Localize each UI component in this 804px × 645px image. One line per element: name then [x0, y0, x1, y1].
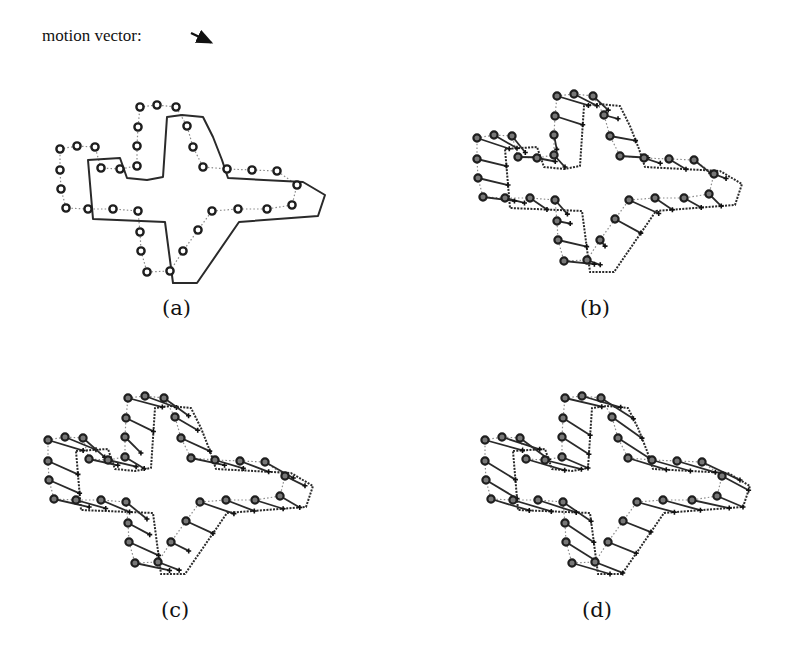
- sample-point: [234, 205, 241, 212]
- sample-point: [134, 207, 141, 214]
- sample-point: [236, 457, 243, 464]
- matched-point-marker: [664, 467, 669, 472]
- sample-point: [516, 434, 523, 441]
- sample-point: [514, 153, 521, 160]
- displacement-vector: [49, 480, 80, 493]
- sample-point: [136, 103, 143, 110]
- sample-point: [273, 167, 280, 174]
- sample-point: [248, 166, 255, 173]
- matched-point-marker: [520, 448, 525, 453]
- sample-point: [211, 456, 218, 463]
- sample-point: [718, 472, 725, 479]
- sample-point: [710, 170, 717, 177]
- sample-point: [177, 434, 184, 441]
- caption-d: (d): [582, 598, 612, 622]
- sample-point: [137, 247, 144, 254]
- sample-point: [680, 194, 687, 201]
- matched-point-marker: [549, 509, 554, 514]
- sample-point: [223, 165, 230, 172]
- sample-point: [501, 194, 508, 201]
- sample-point: [97, 496, 104, 503]
- sample-point: [196, 498, 203, 505]
- sample-point: [183, 122, 190, 129]
- sample-point: [56, 145, 63, 152]
- matched-point-marker: [127, 510, 132, 515]
- sample-point: [596, 236, 603, 243]
- sample-point: [288, 201, 295, 208]
- matched-point-marker: [553, 159, 558, 164]
- sample-point: [122, 414, 129, 421]
- sample-point-contour: [477, 94, 714, 261]
- sample-point: [473, 155, 480, 162]
- sample-point: [73, 142, 80, 149]
- sample-point: [651, 194, 658, 201]
- sample-point: [551, 196, 558, 203]
- matched-point-marker: [741, 505, 746, 510]
- sample-point: [533, 154, 540, 161]
- sample-point: [79, 434, 86, 441]
- sample-point: [616, 152, 623, 159]
- caption-c: (c): [161, 598, 189, 622]
- sample-point: [293, 181, 300, 188]
- sample-point: [698, 458, 705, 465]
- sample-point: [133, 142, 140, 149]
- sample-point: [578, 392, 585, 399]
- sample-point: [498, 433, 505, 440]
- object-contour: [88, 115, 325, 283]
- matched-point-marker: [584, 244, 589, 249]
- matched-point-marker: [586, 103, 591, 108]
- matched-point-marker: [658, 161, 663, 166]
- sample-point: [482, 476, 489, 483]
- sample-point: [281, 472, 288, 479]
- sample-point: [673, 457, 680, 464]
- sample-point: [167, 538, 174, 545]
- matched-point-marker: [103, 506, 108, 511]
- sample-point: [659, 496, 666, 503]
- sample-point: [208, 207, 215, 214]
- sample-point: [179, 247, 186, 254]
- matched-point-marker: [527, 508, 532, 513]
- sample-point: [600, 111, 607, 118]
- sample-point: [121, 433, 128, 440]
- sample-point: [124, 394, 131, 401]
- sample-point: [479, 193, 486, 200]
- sample-point: [182, 517, 189, 524]
- displacement-vector: [485, 461, 515, 480]
- sample-point: [276, 492, 283, 499]
- sample-point: [172, 103, 179, 110]
- sample-point: [199, 163, 206, 170]
- sample-point: [508, 132, 515, 139]
- sample-point: [124, 519, 131, 526]
- sample-point: [131, 559, 138, 566]
- sample-point: [134, 123, 141, 130]
- matched-point-marker: [698, 508, 703, 513]
- sample-point: [171, 413, 178, 420]
- sample-point: [604, 538, 611, 545]
- panel-c: [44, 392, 313, 574]
- sample-point: [570, 90, 577, 97]
- sample-point: [154, 558, 161, 565]
- sample-point: [558, 433, 565, 440]
- sample-point: [553, 92, 560, 99]
- sample-point: [97, 164, 104, 171]
- displacement-vector: [618, 438, 649, 458]
- sample-point: [562, 538, 569, 545]
- sample-point: [50, 495, 57, 502]
- panel-d: [481, 392, 751, 576]
- sample-point: [136, 228, 143, 235]
- sample-point: [44, 436, 51, 443]
- sample-point: [551, 112, 558, 119]
- sample-point: [558, 453, 565, 460]
- sample-point: [57, 185, 64, 192]
- sample-point: [550, 131, 557, 138]
- caption-a: (a): [162, 296, 191, 320]
- sample-point: [91, 143, 98, 150]
- sample-point: [606, 132, 613, 139]
- sample-point: [713, 492, 720, 499]
- sample-point: [553, 217, 560, 224]
- sample-point: [166, 267, 173, 274]
- sample-point: [665, 155, 672, 162]
- sample-point: [153, 101, 160, 108]
- sample-point: [591, 558, 598, 565]
- matched-point-marker: [672, 510, 677, 515]
